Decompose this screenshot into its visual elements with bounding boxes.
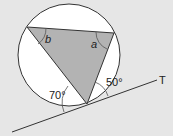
label-angle-a: a xyxy=(91,38,97,50)
label-angle-70: 70° xyxy=(49,89,66,101)
label-angle-50: 50° xyxy=(106,76,123,88)
label-tangent: T xyxy=(159,74,166,86)
label-angle-b: b xyxy=(45,33,51,45)
circle-theorem-diagram: b a 70° 50° T xyxy=(0,0,173,136)
